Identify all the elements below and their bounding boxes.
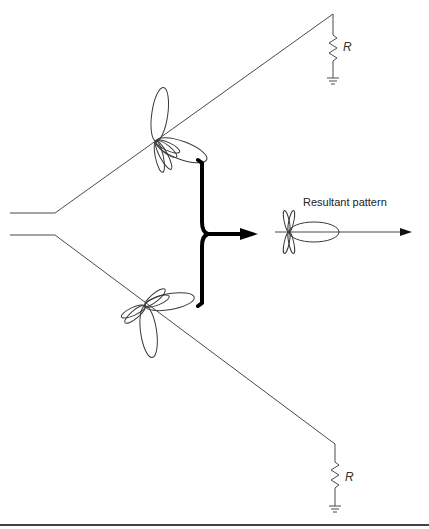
lower-termination-resistor: R [329, 444, 354, 512]
v-antenna-diagram: R R Resultant pattern [0, 0, 429, 529]
ground-icon [329, 506, 341, 512]
resistor-label-upper: R [343, 40, 352, 54]
upper-termination-resistor: R [327, 14, 352, 84]
feed-line-upper [10, 14, 333, 213]
combine-arrow-head [240, 228, 258, 240]
direction-arrow-head [400, 228, 412, 236]
lower-leg-pattern [120, 286, 196, 358]
resistor-label-lower: R [345, 470, 354, 484]
ground-icon [327, 78, 339, 84]
resultant-pattern-label: Resultant pattern [303, 196, 387, 208]
feed-line-lower [10, 235, 335, 444]
